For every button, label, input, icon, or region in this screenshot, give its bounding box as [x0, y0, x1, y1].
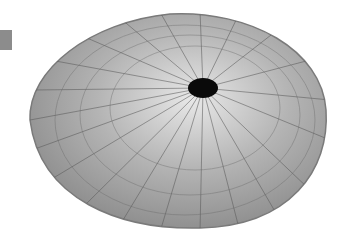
keyhole-opening: [188, 78, 218, 98]
shell-illustration: [0, 0, 341, 239]
shell-body: [30, 10, 330, 232]
